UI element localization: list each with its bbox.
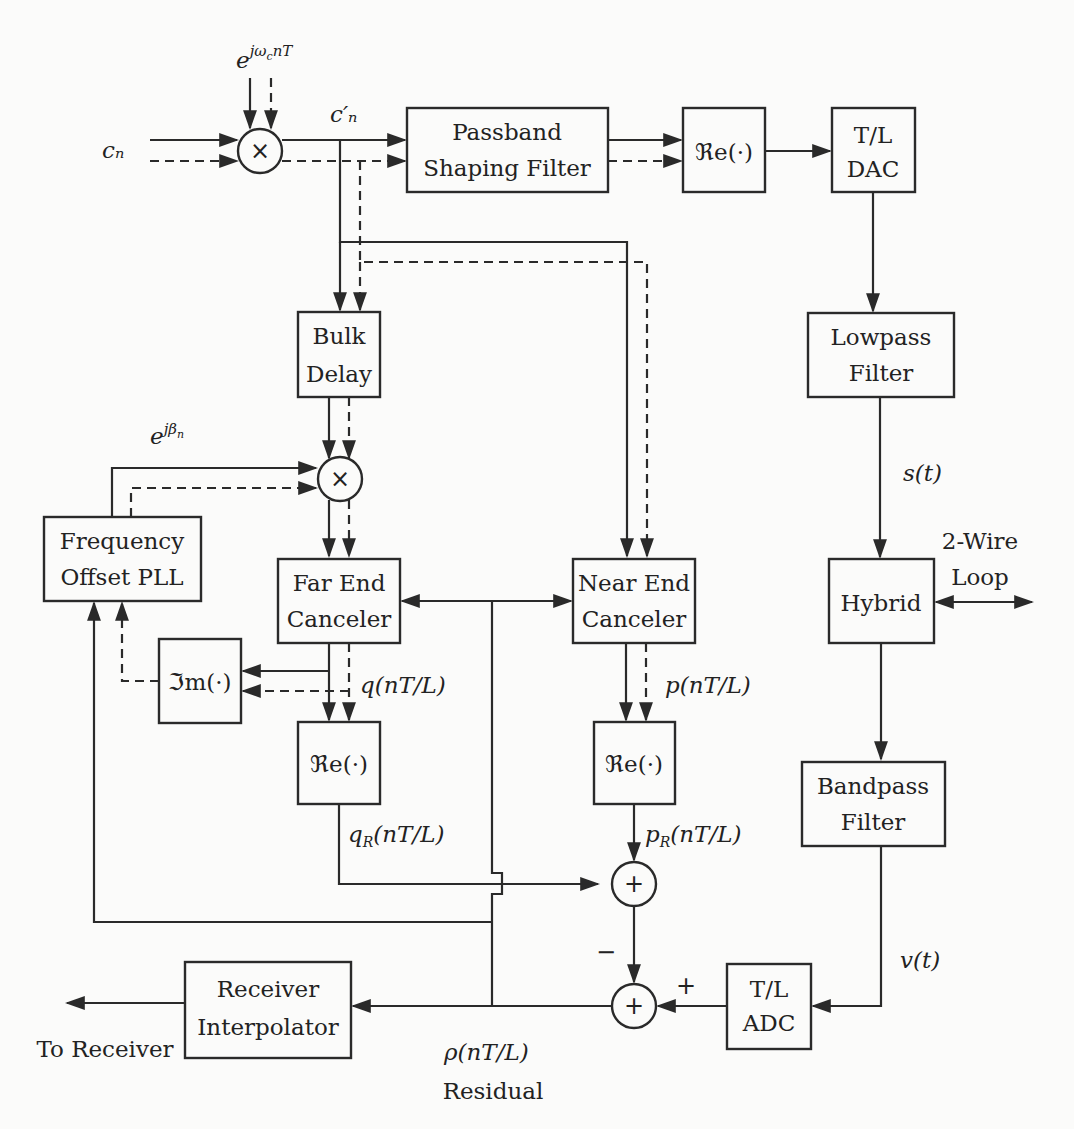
svg-text:Lowpass: Lowpass [831,324,932,350]
svg-text:ℜe(·): ℜe(·) [310,751,368,777]
signal-cn-prime-label: c′ₙ [330,101,357,127]
summer-1: + [612,862,656,906]
plus-sign-label: + [676,972,696,1000]
svg-text:ℜe(·): ℜe(·) [605,751,663,777]
signal-qR-label: qR(nT/L) [348,821,444,850]
multiplier-1: × [238,129,282,173]
frequency-offset-pll-block: Frequency Offset PLL [44,517,201,601]
svg-text:ℜe(·): ℜe(·) [695,139,753,165]
minus-sign-label: − [596,938,616,966]
pll-to-mixer2-real [112,468,316,517]
hybrid-block: Hybrid [829,559,934,643]
passband-shaping-filter-block: Passband Shaping Filter [407,108,608,192]
far-end-canceler-block: Far End Canceler [278,559,400,643]
two-wire-label: 2-Wire [942,528,1018,554]
signal-st-label: s(t) [903,460,942,486]
svg-text:Near End: Near End [578,570,690,596]
svg-text:Canceler: Canceler [287,606,392,632]
to-receiver-label: To Receiver [36,1036,173,1062]
svg-text:Hybrid: Hybrid [841,590,922,616]
svg-text:T/L: T/L [750,976,788,1002]
cn-prime-to-near-end-imag [360,161,647,556]
residual-bus-line [492,601,502,1006]
multiplier-2: × [318,457,362,501]
svg-text:Bandpass: Bandpass [817,773,929,799]
svg-text:Filter: Filter [841,809,906,835]
plus-icon: + [624,870,644,898]
summer-2: + [612,984,656,1028]
svg-text:ℑm(·): ℑm(·) [168,669,231,695]
echo-canceler-block-diagram: cₙ ejωcnT × c′ₙ Passband Shaping Filter … [0,0,1074,1129]
svg-text:Far End: Far End [293,570,386,596]
pll-to-mixer2-imag [131,488,316,517]
signal-q-label: q(nT/L) [360,672,446,698]
imag-part-block: ℑm(·) [159,639,241,723]
im-to-pll-arrow [122,603,159,681]
tl-dac-block: T/L DAC [832,108,915,192]
near-end-canceler-block: Near End Canceler [573,559,695,643]
signal-rho-label: ρ(nT/L) [443,1039,529,1065]
beta-label: ejβn [150,420,184,449]
residual-to-pll [94,603,492,922]
tl-adc-block: T/L ADC [727,964,811,1049]
svg-text:Filter: Filter [849,360,914,386]
svg-text:Frequency: Frequency [60,528,184,554]
svg-text:ADC: ADC [742,1010,796,1036]
svg-text:DAC: DAC [847,156,900,182]
real-part-block-far: ℜe(·) [298,722,380,804]
cn-prime-to-near-end-real [340,140,627,556]
svg-text:Offset PLL: Offset PLL [60,564,183,590]
lowpass-filter-block: Lowpass Filter [808,313,954,397]
loop-label: Loop [951,564,1009,590]
multiply-icon: × [330,465,350,493]
svg-text:Receiver: Receiver [217,976,319,1002]
bandpass-filter-block: Bandpass Filter [802,762,945,846]
residual-label: Residual [443,1078,544,1104]
svg-text:T/L: T/L [854,122,892,148]
svg-text:Bulk: Bulk [312,323,366,349]
signal-cn-label: cₙ [102,137,124,163]
multiply-icon: × [250,137,270,165]
signal-vt-label: v(t) [900,947,940,973]
signal-pR-label: pR(nT/L) [645,821,741,850]
svg-text:Shaping Filter: Shaping Filter [423,155,591,181]
real-part-block-tx: ℜe(·) [683,108,765,192]
svg-text:Delay: Delay [306,361,372,387]
svg-text:Interpolator: Interpolator [197,1014,338,1040]
bulk-delay-block: Bulk Delay [298,312,380,397]
receiver-interpolator-block: Receiver Interpolator [185,962,351,1058]
carrier-label: ejωcnT [236,42,293,73]
svg-text:Passband: Passband [452,119,562,145]
real-part-block-near: ℜe(·) [594,722,675,804]
signal-p-label: p(nT/L) [665,672,751,698]
plus-icon: + [624,992,644,1020]
svg-text:Canceler: Canceler [582,606,687,632]
bandpass-to-adc-arrow [813,846,881,1006]
